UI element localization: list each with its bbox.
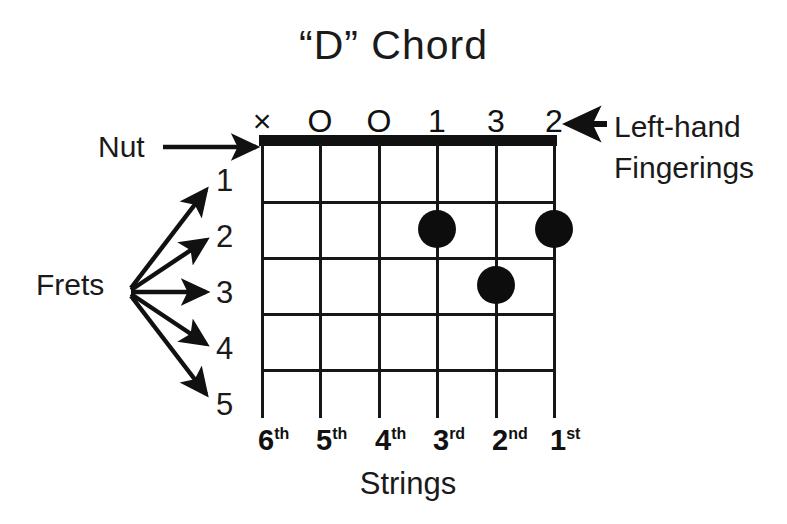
fret-line-1 [262, 201, 554, 204]
string-label-2-ordinal: nd [508, 425, 528, 442]
string-label-5-ordinal: th [332, 425, 347, 442]
frets-arrow-4-icon [131, 294, 206, 344]
strings-caption: Strings [262, 466, 554, 502]
string-label-5: 5th [316, 424, 347, 456]
fretboard [262, 143, 554, 418]
fingering-marker-string-4: O [359, 104, 399, 138]
string-label-2: 2nd [492, 424, 528, 456]
string-label-6: 6th [258, 424, 289, 456]
left-hand-fingerings-label: Left-hand Fingerings [614, 106, 762, 188]
fret-line-2 [262, 257, 554, 260]
string-label-6-ordinal: th [274, 425, 289, 442]
string-label-3: 3rd [433, 424, 465, 456]
fingering-marker-string-6: × [242, 104, 282, 138]
fingering-marker-string-5: O [300, 104, 340, 138]
string-label-1-number: 1 [550, 424, 566, 456]
left-hand-line-2: Fingerings [614, 147, 762, 188]
string-line-4 [378, 143, 381, 418]
page-title: “D” Chord [0, 22, 787, 69]
string-label-4: 4th [375, 424, 406, 456]
left-hand-fingering-row: × O O 1 3 2 [262, 104, 554, 138]
finger-dot-string-3-fret-2 [418, 210, 456, 248]
fret-number-4: 4 [216, 331, 250, 367]
frets-arrow-1-icon [131, 190, 206, 288]
frets-arrow-5-icon [131, 296, 206, 394]
string-label-3-number: 3 [433, 424, 449, 456]
fret-number-5: 5 [216, 387, 250, 423]
string-label-6-number: 6 [258, 424, 274, 456]
frets-arrow-2-icon [131, 240, 206, 290]
string-label-2-number: 2 [492, 424, 508, 456]
nut-label: Nut [98, 130, 145, 164]
nut-bar [259, 135, 557, 146]
string-label-1-ordinal: st [566, 425, 580, 442]
string-label-4-number: 4 [375, 424, 391, 456]
string-label-3-ordinal: rd [449, 425, 465, 442]
string-label-1: 1st [550, 424, 580, 456]
fret-line-3 [262, 313, 554, 316]
fret-line-4 [262, 369, 554, 372]
string-number-labels: 6th 5th 4th 3rd 2nd 1st [262, 424, 572, 458]
fret-number-3: 3 [216, 275, 250, 311]
finger-dot-string-1-fret-2 [535, 210, 573, 248]
string-label-5-number: 5 [316, 424, 332, 456]
string-label-4-ordinal: th [391, 425, 406, 442]
fingering-marker-string-3: 1 [417, 104, 457, 138]
string-line-5 [319, 143, 322, 418]
fret-number-1: 1 [216, 163, 250, 199]
fingering-marker-string-1: 2 [534, 104, 574, 138]
string-line-3 [436, 143, 439, 418]
fret-number-2: 2 [216, 219, 250, 255]
string-line-1 [553, 143, 556, 418]
fingering-marker-string-2: 3 [476, 104, 516, 138]
finger-dot-string-2-fret-3 [477, 266, 515, 304]
chord-diagram-page: “D” Chord × O O 1 3 2 6th 5th 4th 3rd 2n… [0, 0, 787, 524]
string-line-6 [261, 143, 264, 418]
frets-label: Frets [36, 268, 104, 302]
left-hand-line-1: Left-hand [614, 110, 741, 143]
